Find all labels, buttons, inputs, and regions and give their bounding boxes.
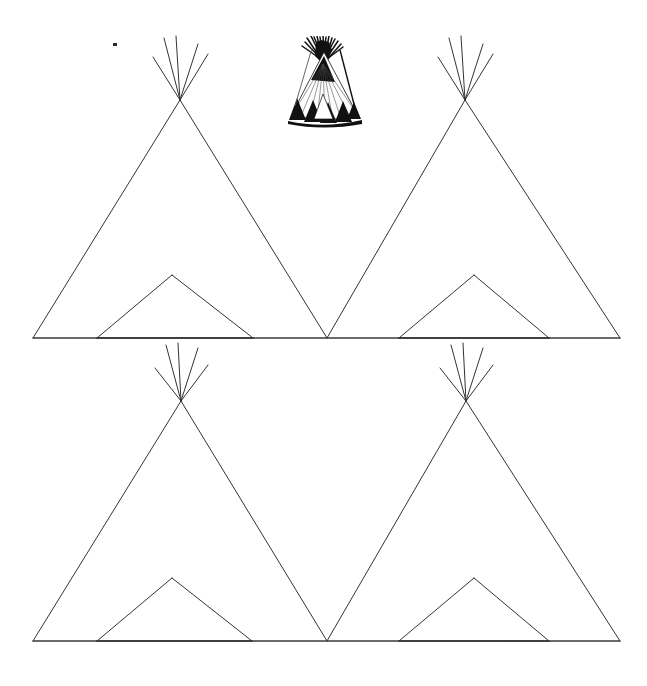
tipi-reference-photo	[283, 36, 365, 128]
ink-speck	[113, 43, 117, 46]
tipi-scene	[0, 0, 647, 686]
photo-content	[283, 36, 365, 128]
drawing-canvas	[0, 0, 647, 686]
